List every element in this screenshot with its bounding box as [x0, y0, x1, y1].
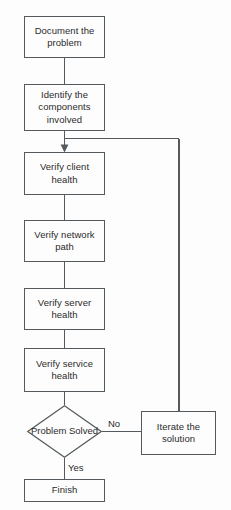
node-label: Finish: [49, 484, 81, 497]
node-label: Verify network path: [25, 229, 104, 254]
node-iterate-the-solution: Iterate the solution: [141, 411, 216, 455]
decision-label: Problem Solved: [27, 405, 102, 458]
node-verify-client-health: Verify client health: [24, 152, 105, 195]
node-label: Document the problem: [25, 25, 104, 50]
node-problem-solved-decision: Problem Solved: [27, 405, 102, 458]
node-label: Verify service health: [25, 358, 104, 383]
flowchart-canvas: Document the problem Identify the compon…: [0, 0, 231, 510]
node-label: Identify the components involved: [25, 89, 104, 127]
node-identify-the-components-involved: Identify the components involved: [24, 84, 105, 131]
node-label: Verify server health: [25, 297, 104, 322]
edge-label-no: No: [108, 418, 120, 429]
node-finish: Finish: [24, 479, 105, 502]
node-label: Verify client health: [25, 161, 104, 186]
node-verify-server-health: Verify server health: [24, 288, 105, 330]
node-label: Iterate the solution: [142, 421, 215, 446]
node-verify-network-path: Verify network path: [24, 220, 105, 262]
edge-label-yes: Yes: [68, 462, 84, 473]
node-document-the-problem: Document the problem: [24, 16, 105, 58]
node-verify-service-health: Verify service health: [24, 348, 105, 392]
